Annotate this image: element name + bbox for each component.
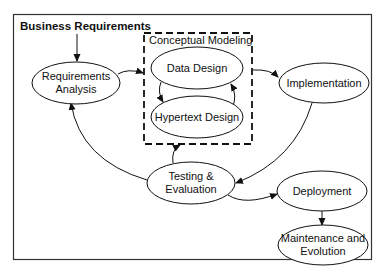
conceptual-modeling-label: Conceptual Modeling xyxy=(149,34,252,46)
node-maintenance-evolution: Maintenance and Evolution xyxy=(278,225,368,265)
edge-testing-to-requirements xyxy=(71,103,147,180)
svg-text:Hypertext Design: Hypertext Design xyxy=(155,111,239,123)
svg-text:Evolution: Evolution xyxy=(300,245,345,257)
svg-text:Implementation: Implementation xyxy=(286,77,361,89)
node-deployment: Deployment xyxy=(277,171,367,211)
edge-data-to-hypertext xyxy=(159,82,163,102)
edge-implementation-to-testing xyxy=(236,103,312,183)
business-requirements-label: Business Requirements xyxy=(20,20,151,32)
svg-text:Data Design: Data Design xyxy=(167,62,228,74)
node-requirements-analysis: Requirements Analysis xyxy=(32,62,120,104)
process-diagram: Business Requirements Conceptual Modelin… xyxy=(0,0,383,278)
node-testing-evaluation: Testing & Evaluation xyxy=(147,162,235,204)
svg-text:Deployment: Deployment xyxy=(293,185,352,197)
edge-testing-to-deployment xyxy=(228,194,277,200)
edge-conceptual-to-implementation xyxy=(253,70,278,77)
node-data-design: Data Design xyxy=(151,47,243,89)
svg-text:Analysis: Analysis xyxy=(56,83,97,95)
node-implementation: Implementation xyxy=(279,63,369,103)
svg-text:Evaluation: Evaluation xyxy=(165,183,216,195)
edge-requirements-to-conceptual xyxy=(118,71,143,74)
svg-text:Maintenance and: Maintenance and xyxy=(281,232,365,244)
svg-text:Testing &: Testing & xyxy=(168,170,214,182)
svg-text:Requirements: Requirements xyxy=(42,70,111,82)
edge-testing-to-conceptual xyxy=(173,145,180,163)
node-hypertext-design: Hypertext Design xyxy=(151,96,243,138)
